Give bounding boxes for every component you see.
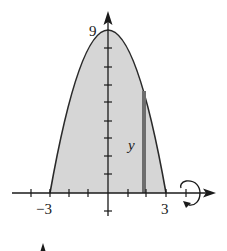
label-x-3: 3 [161, 201, 169, 217]
label-y-max: 9 [89, 23, 97, 39]
label-x-neg3: −3 [36, 201, 52, 217]
label-strip-height: y [126, 137, 135, 153]
rotation-arrow-icon [181, 181, 200, 208]
representative-strip [142, 91, 146, 193]
diagram-canvas: 9 −3 3 y [0, 0, 227, 251]
partial-axis-arrow-icon [41, 243, 46, 251]
